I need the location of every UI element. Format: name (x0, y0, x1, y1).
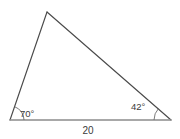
left-angle-label: 70° (20, 108, 35, 119)
triangle-diagram: 70° 42° 20 (0, 0, 180, 139)
geometry-figure-canvas: 70° 42° 20 (0, 0, 180, 139)
triangle-edge-left (10, 12, 47, 120)
right-angle-label: 42° (131, 101, 146, 112)
base-length-label: 20 (82, 125, 94, 136)
triangle-edge-right (47, 12, 171, 120)
right-angle-arc-icon (154, 108, 159, 120)
